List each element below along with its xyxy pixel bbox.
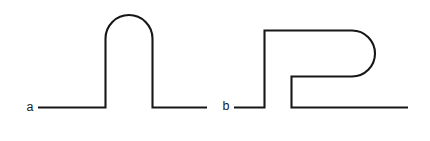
curve-label-b: b [223, 99, 230, 113]
curve-label-a: a [27, 100, 34, 114]
curve-diagram-canvas: a b [0, 0, 430, 141]
diagram-background [0, 0, 430, 141]
